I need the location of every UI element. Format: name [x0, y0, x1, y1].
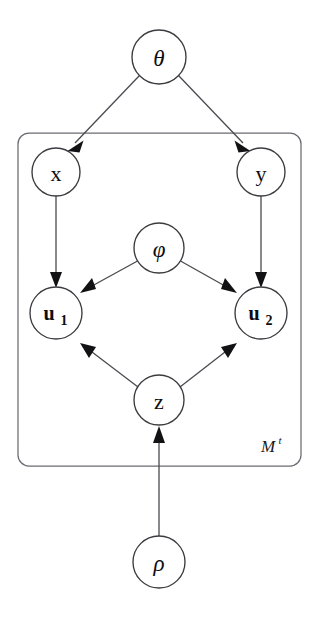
node-u2-label: u: [248, 302, 259, 324]
edge-theta-to-y: [179, 76, 251, 153]
edge-phi-to-u1: [80, 261, 138, 293]
node-u2-circle[interactable]: [235, 287, 287, 339]
node-rho-label: ρ: [152, 551, 164, 576]
node-x-label: x: [51, 161, 62, 186]
edge-phi-to-u1-line: [92, 261, 138, 286]
edge-phi-to-u2-arrowhead: [221, 278, 237, 293]
node-theta-label: θ: [153, 46, 164, 71]
node-y-label: y: [256, 161, 267, 186]
node-u2[interactable]: u 2: [235, 287, 287, 339]
edge-z-to-u2-arrowhead: [221, 343, 237, 358]
plate-label-superscript-t: t: [278, 434, 282, 446]
edge-z-to-u1-line: [92, 352, 138, 387]
edge-rho-to-z: [153, 426, 165, 536]
node-u1-subscript: 1: [61, 313, 68, 328]
node-u1-circle[interactable]: [30, 287, 82, 339]
node-y[interactable]: y: [237, 148, 285, 196]
edge-phi-to-u2-line: [181, 261, 226, 286]
node-phi-label: φ: [153, 237, 166, 262]
edge-x-to-u1: [50, 196, 62, 288]
edge-phi-to-u2: [181, 261, 238, 293]
edge-x-to-u1-arrowhead: [50, 272, 62, 288]
node-rho[interactable]: ρ: [133, 536, 185, 588]
edge-rho-to-z-arrowhead: [153, 426, 165, 443]
graphical-model-canvas: M t: [0, 0, 317, 619]
node-z[interactable]: z: [134, 375, 184, 425]
node-x[interactable]: x: [32, 148, 80, 196]
node-z-label: z: [154, 389, 164, 414]
edge-z-to-u1: [80, 343, 138, 387]
edge-z-to-u2-line: [180, 352, 225, 387]
edge-z-to-u2: [180, 343, 237, 387]
edge-theta-to-x: [68, 76, 140, 153]
node-theta[interactable]: θ: [132, 30, 186, 84]
edge-y-to-u2-arrowhead: [255, 272, 267, 288]
edge-y-to-u2: [255, 196, 267, 288]
node-u1-label: u: [43, 302, 54, 324]
node-u1[interactable]: u 1: [30, 287, 82, 339]
node-phi[interactable]: φ: [134, 223, 184, 273]
plate-label-M: M: [260, 437, 276, 456]
edge-z-to-u1-arrowhead: [80, 343, 96, 358]
edge-phi-to-u1-arrowhead: [80, 278, 96, 293]
node-u2-subscript: 2: [266, 313, 273, 328]
figure-root: M t: [0, 0, 317, 619]
